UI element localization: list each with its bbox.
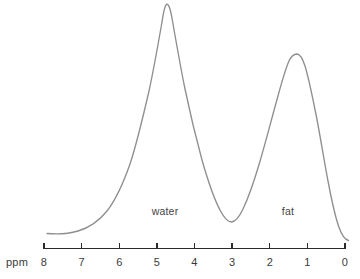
spectrum-plot-area: [0, 0, 360, 279]
axis-tick-label-3: 3: [222, 256, 242, 268]
ppm-unit-label: ppm: [6, 256, 28, 268]
axis-tick-label-4: 4: [185, 256, 205, 268]
axis-tick-label-8: 8: [34, 256, 54, 268]
axis-tick-label-2: 2: [260, 256, 280, 268]
spectrum-curve: [47, 4, 349, 240]
fat-peak-label: fat: [282, 205, 294, 217]
water-peak-label: water: [152, 205, 179, 217]
axis-tick-group: [44, 243, 345, 249]
axis-tick-label-5: 5: [147, 256, 167, 268]
axis-tick-label-1: 1: [297, 256, 317, 268]
axis-tick-label-7: 7: [72, 256, 92, 268]
axis-tick-label-6: 6: [109, 256, 129, 268]
axis-tick-label-0: 0: [335, 256, 355, 268]
spectrum-figure: ppm 8 7 6 5 4 3 2 1 0 water fat: [0, 0, 360, 279]
